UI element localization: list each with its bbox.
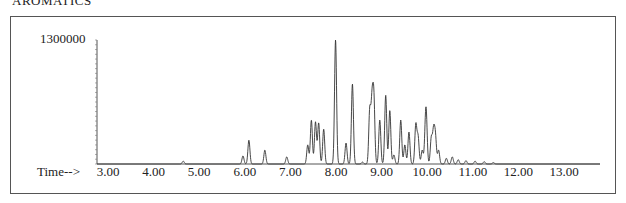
- x-tick-label: 10.00: [413, 164, 442, 180]
- x-tick-label: 8.00: [325, 164, 348, 180]
- x-tick-label: 13.00: [549, 164, 578, 180]
- x-tick-label: 12.00: [504, 164, 533, 180]
- chromatogram-trace: [97, 40, 600, 164]
- x-tick-label: 3.00: [97, 164, 120, 180]
- x-axis-label: Time-->: [37, 164, 80, 180]
- x-tick-label: 11.00: [458, 164, 487, 180]
- x-tick-label: 9.00: [370, 164, 393, 180]
- x-tick-label: 5.00: [188, 164, 211, 180]
- y-max-label: 1300000: [40, 31, 86, 47]
- x-tick-label: 4.00: [142, 164, 165, 180]
- y-axis: [95, 40, 97, 164]
- x-tick-label: 7.00: [279, 164, 302, 180]
- x-tick-label: 6.00: [233, 164, 256, 180]
